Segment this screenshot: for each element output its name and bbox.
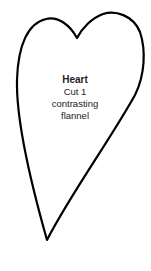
pattern-title: Heart [40,74,110,86]
heart-outline-icon [0,0,151,271]
material-line-1: contrasting [40,98,110,110]
material-line-2: flannel [40,110,110,122]
heart-pattern-piece: Heart Cut 1 contrasting flannel [0,0,151,271]
cut-instruction: Cut 1 [40,86,110,98]
pattern-label: Heart Cut 1 contrasting flannel [40,74,110,122]
